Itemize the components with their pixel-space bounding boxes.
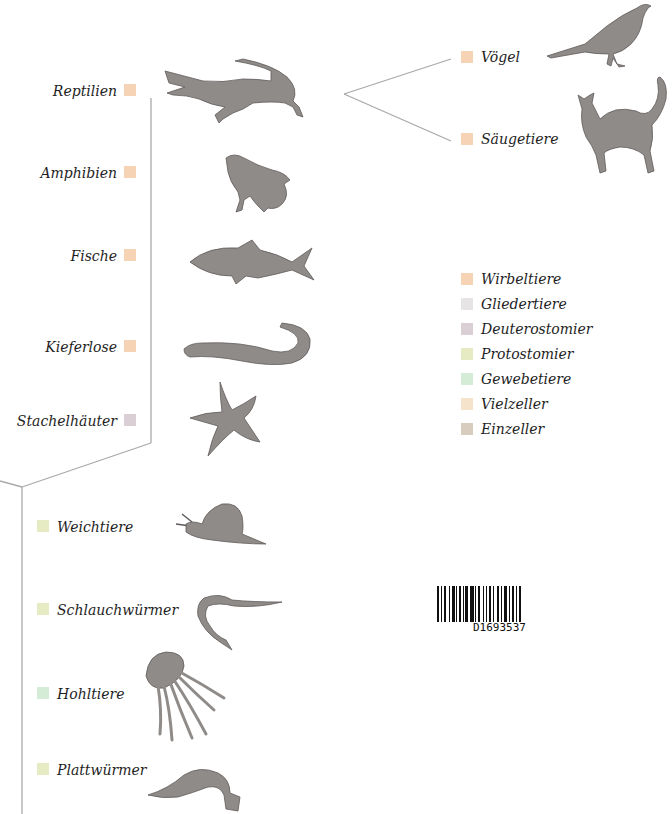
barcode-number: D1693537 bbox=[473, 622, 526, 634]
label-stachelhaeuter: Stachelhäuter bbox=[17, 413, 117, 429]
barcode-bars bbox=[437, 586, 545, 622]
bird-icon bbox=[545, 0, 655, 72]
phylogenetic-tree-diagram: Vögel Säugetiere Reptilien Amphibien Fis… bbox=[0, 0, 672, 814]
label-weichtiere: Weichtiere bbox=[57, 519, 133, 535]
label-voegel: Vögel bbox=[481, 49, 520, 65]
swatch-voegel bbox=[461, 51, 473, 63]
barcode: D1693537 bbox=[437, 586, 545, 626]
flatworm-icon bbox=[148, 765, 242, 813]
bird-fork-line bbox=[344, 59, 451, 94]
swatch-plattwuermer bbox=[37, 763, 49, 775]
cat-icon bbox=[574, 75, 670, 177]
legend-swatch-vielzeller bbox=[461, 398, 473, 410]
label-plattwuermer: Plattwürmer bbox=[57, 762, 146, 778]
legend-swatch-wirbeltiere bbox=[461, 273, 473, 285]
mammal-fork-line bbox=[344, 94, 451, 141]
legend-swatch-gliedertiere bbox=[461, 298, 473, 310]
label-kieferlose: Kieferlose bbox=[45, 339, 117, 355]
legend-label-gewebetiere: Gewebetiere bbox=[481, 371, 571, 387]
label-reptilien: Reptilien bbox=[53, 83, 117, 99]
swatch-kieferlose bbox=[124, 340, 136, 352]
fish-icon bbox=[188, 236, 316, 284]
snail-icon bbox=[172, 500, 268, 546]
swatch-reptilien bbox=[124, 84, 136, 96]
legend-label-vielzeller: Vielzeller bbox=[481, 396, 548, 412]
swatch-hohltiere bbox=[37, 687, 49, 699]
swatch-saeugetiere bbox=[461, 133, 473, 145]
frog-icon bbox=[224, 152, 294, 214]
lamprey-icon bbox=[182, 321, 314, 367]
swatch-stachelhaeuter bbox=[124, 414, 136, 426]
swatch-fische bbox=[124, 249, 136, 261]
label-saeugetiere: Säugetiere bbox=[481, 131, 559, 147]
root-stub-line bbox=[0, 481, 22, 487]
diagonal-branch-line bbox=[22, 443, 151, 487]
jellyfish-icon bbox=[144, 650, 234, 746]
legend-label-deuterostomier: Deuterostomier bbox=[481, 321, 593, 337]
legend-label-protostomier: Protostomier bbox=[481, 346, 574, 362]
swatch-weichtiere bbox=[37, 520, 49, 532]
legend-label-gliedertiere: Gliedertiere bbox=[481, 296, 567, 312]
roundworm-icon bbox=[192, 592, 284, 652]
starfish-icon bbox=[188, 382, 268, 458]
legend-swatch-einzeller bbox=[461, 423, 473, 435]
label-hohltiere: Hohltiere bbox=[57, 686, 125, 702]
crocodile-icon bbox=[163, 57, 305, 123]
label-schlauchwuermer: Schlauchwürmer bbox=[57, 602, 178, 618]
legend-label-wirbeltiere: Wirbeltiere bbox=[481, 271, 561, 287]
legend-swatch-protostomier bbox=[461, 348, 473, 360]
swatch-amphibien bbox=[124, 166, 136, 178]
legend-swatch-gewebetiere bbox=[461, 373, 473, 385]
legend-swatch-deuterostomier bbox=[461, 323, 473, 335]
label-amphibien: Amphibien bbox=[40, 165, 117, 181]
swatch-schlauchwuermer bbox=[37, 603, 49, 615]
legend-label-einzeller: Einzeller bbox=[481, 421, 544, 437]
label-fische: Fische bbox=[70, 248, 117, 264]
